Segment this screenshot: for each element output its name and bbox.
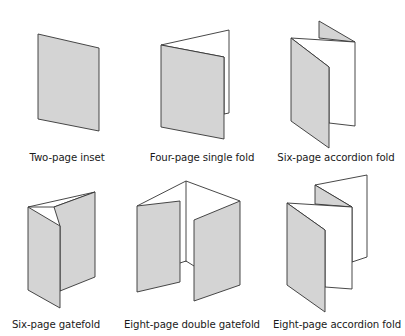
- left-panel: [28, 207, 60, 308]
- six-page-accordion-fold-illustration: [291, 21, 355, 148]
- eight-page-accordion-fold-illustration: [287, 175, 367, 312]
- fold-diagrams: [0, 0, 405, 336]
- bottom-fold-right: [186, 261, 194, 266]
- page-panel: [38, 34, 99, 131]
- caption-eight-page-accordion-fold: Eight-page accordion fold: [273, 319, 401, 330]
- left-panel: [137, 201, 180, 292]
- six-page-gatefold-illustration: [28, 192, 95, 308]
- front-panel: [161, 45, 224, 139]
- right-panel: [194, 201, 240, 301]
- caption-six-page-accordion-fold: Six-page accordion fold: [277, 152, 394, 163]
- caption-six-page-gatefold: Six-page gatefold: [12, 319, 100, 330]
- bottom-fold-left: [180, 261, 186, 263]
- back-panel: [319, 21, 355, 42]
- caption-four-page-single-fold: Four-page single fold: [150, 152, 255, 163]
- caption-eight-page-double-gatefold: Eight-page double gatefold: [124, 319, 260, 330]
- top-edge: [137, 181, 240, 206]
- caption-two-page-inset: Two-page inset: [29, 152, 104, 163]
- eight-page-double-gatefold-illustration: [137, 181, 240, 301]
- four-page-single-fold-illustration: [161, 30, 229, 139]
- two-page-inset-illustration: [38, 34, 99, 131]
